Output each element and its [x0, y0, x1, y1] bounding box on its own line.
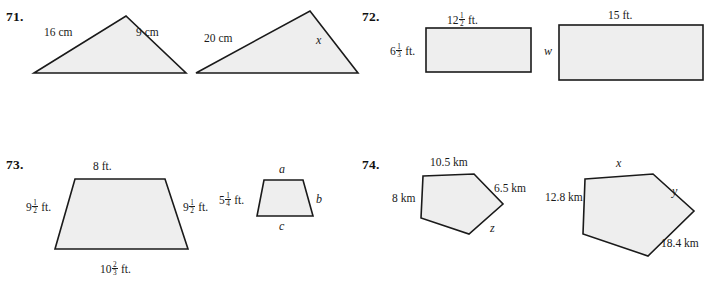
mixed-denominator: 2 — [459, 19, 465, 27]
mixed-whole: 9 — [183, 201, 189, 213]
label-a: a — [279, 163, 285, 175]
mixed-denominator: 2 — [32, 206, 38, 214]
label-20-cm: 20 cm — [204, 33, 232, 45]
mixed-numerator: 2 — [112, 261, 118, 268]
mixed-denominator: 3 — [112, 268, 118, 276]
label-12-8-km: 12.8 km — [545, 192, 583, 204]
mixed-whole: 10 — [100, 263, 112, 275]
trapezoid-large-73 — [52, 177, 192, 251]
worksheet-page: 71. 16 cm 9 cm 20 cm x 72. 1212 ft. 613 … — [0, 0, 717, 287]
label-w: w — [544, 45, 552, 57]
label-15-ft: 15 ft. — [608, 10, 632, 22]
mixed-numerator: 1 — [32, 199, 38, 206]
unit-label: ft. — [198, 201, 208, 213]
label-6-5-km: 6.5 km — [494, 183, 526, 195]
label-y: y — [672, 185, 677, 197]
unit-label: ft. — [41, 201, 51, 213]
unit-label: ft. — [121, 263, 131, 275]
mixed-numerator: 1 — [225, 192, 231, 199]
trapezoid-small-73-shape — [257, 180, 313, 216]
label-5-and-one-quarter-ft: 514 ft. — [219, 192, 244, 208]
trapezoid-small-73 — [255, 178, 317, 218]
label-16-cm: 16 cm — [44, 27, 72, 39]
label-8-ft: 8 ft. — [93, 161, 112, 173]
label-12-and-one-half-ft: 1212 ft. — [447, 12, 478, 28]
label-9-and-one-half-ft-left: 912 ft. — [26, 199, 51, 215]
problem-number-74: 74. — [362, 157, 379, 173]
mixed-denominator: 3 — [396, 50, 402, 58]
rectangle-large-72-shape — [559, 25, 703, 80]
mixed-numerator: 1 — [189, 199, 195, 206]
mixed-whole: 6 — [390, 45, 396, 57]
mixed-whole: 5 — [219, 194, 225, 206]
problem-number-73: 73. — [6, 157, 23, 173]
label-8-km: 8 km — [392, 193, 415, 205]
label-6-and-one-third-ft: 613 ft. — [390, 43, 415, 59]
triangle-small-71 — [28, 12, 188, 80]
label-10-and-two-thirds-ft: 1023 ft. — [100, 261, 131, 277]
trapezoid-large-73-shape — [55, 179, 188, 249]
mixed-denominator: 4 — [225, 199, 231, 207]
unit-label: ft. — [468, 14, 478, 26]
label-10-5-km: 10.5 km — [430, 157, 468, 169]
label-9-and-one-half-ft-right: 912 ft. — [183, 199, 208, 215]
mixed-whole: 9 — [26, 201, 32, 213]
label-18-4-km: 18.4 km — [661, 238, 699, 250]
unit-label: ft. — [234, 194, 244, 206]
mixed-whole: 12 — [447, 14, 459, 26]
unit-label: ft. — [405, 45, 415, 57]
problem-number-72: 72. — [362, 9, 379, 25]
label-c: c — [279, 220, 284, 232]
label-9-cm: 9 cm — [136, 27, 159, 39]
mixed-numerator: 1 — [459, 12, 465, 19]
rectangle-small-72 — [425, 27, 532, 73]
label-x: x — [316, 34, 321, 46]
mixed-numerator: 1 — [396, 43, 402, 50]
triangle-small-71-shape — [34, 16, 186, 73]
label-x: x — [616, 157, 621, 169]
rectangle-large-72 — [558, 24, 704, 81]
rectangle-small-72-shape — [426, 28, 531, 72]
label-b: b — [316, 193, 322, 205]
mixed-denominator: 2 — [189, 206, 195, 214]
label-z: z — [490, 222, 495, 234]
problem-number-71: 71. — [6, 9, 23, 25]
